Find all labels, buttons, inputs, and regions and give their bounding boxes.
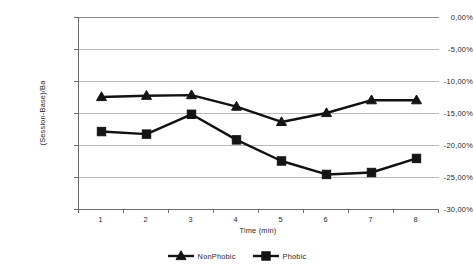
legend-item-nonphobic[interactable]: NonPhobic — [167, 250, 236, 262]
x-tick-label: 7 — [368, 215, 372, 224]
x-tick-label: 3 — [188, 215, 192, 224]
legend-label: Phobic — [283, 252, 307, 261]
data-point — [142, 130, 150, 138]
data-point — [97, 127, 105, 135]
x-tick-mark — [303, 209, 304, 213]
series-layer — [79, 17, 439, 209]
x-tick-label: 4 — [233, 215, 237, 224]
x-tick-label: 8 — [413, 215, 417, 224]
x-tick-mark — [168, 209, 169, 213]
data-point — [412, 154, 420, 162]
x-axis-title: Time (min) — [78, 226, 438, 235]
x-tick-mark — [213, 209, 214, 213]
y-axis-title: (Session-Base)/Ba — [38, 28, 47, 198]
x-tick-mark — [258, 209, 259, 213]
legend-item-phobic[interactable]: Phobic — [252, 250, 307, 262]
line-chart: (Session-Base)/Ba 0,00%-5,00%-10,00%-15,… — [0, 0, 473, 275]
data-point — [277, 157, 285, 165]
x-tick-label: 1 — [98, 215, 102, 224]
x-tick-mark — [438, 209, 439, 213]
data-point — [322, 170, 330, 178]
series-line — [102, 114, 417, 174]
x-tick-label: 5 — [278, 215, 282, 224]
series-nonphobic — [97, 90, 422, 126]
x-tick-label: 6 — [323, 215, 327, 224]
x-tick-label: 2 — [143, 215, 147, 224]
x-tick-mark — [348, 209, 349, 213]
chart-legend: NonPhobicPhobic — [0, 250, 473, 262]
y-axis-title-wrap: (Session-Base)/Ba — [10, 17, 24, 209]
legend-label: NonPhobic — [198, 252, 236, 261]
data-point — [187, 110, 195, 118]
data-point — [367, 168, 375, 176]
x-tick-mark — [78, 209, 79, 213]
x-tick-mark — [123, 209, 124, 213]
series-phobic — [97, 110, 420, 179]
data-point — [232, 136, 240, 144]
x-tick-mark — [393, 209, 394, 213]
triangle-marker-icon — [167, 250, 195, 262]
square-marker-icon — [252, 250, 280, 262]
plot-area — [78, 17, 439, 210]
